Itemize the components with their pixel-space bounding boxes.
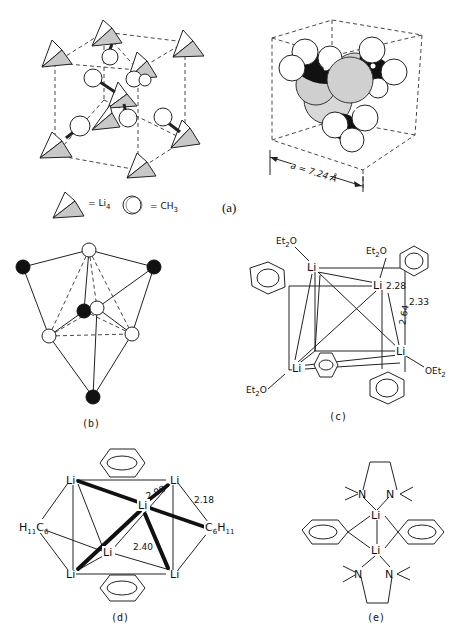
filled-atom xyxy=(147,260,161,274)
ch3-sphere xyxy=(102,49,118,65)
li-atom-label: Li xyxy=(103,546,112,559)
distance-label: 2.33 xyxy=(409,297,429,307)
et2o-label: Et2O xyxy=(246,385,267,398)
distance-label: 2.98 xyxy=(144,483,167,501)
et2o-label: Et2O xyxy=(366,246,387,259)
ch3-sphere xyxy=(119,109,137,127)
phenyl-ring xyxy=(302,520,348,544)
li-atom-label: Li xyxy=(371,544,380,557)
ch3-legend-label: = CH3 xyxy=(150,201,178,214)
li-atom-label: Li xyxy=(138,499,147,512)
phenyl-ring xyxy=(398,520,444,544)
distance-label: 2.64 xyxy=(397,304,410,326)
li4-legend-label: = Li4 xyxy=(88,198,111,211)
distance-label: 2.40 xyxy=(133,542,153,552)
panel-e-caption: (e) xyxy=(367,612,385,623)
li4-tetrahedron xyxy=(92,105,120,130)
li-atom-label: Li xyxy=(307,261,316,274)
li4-tetrahedron xyxy=(92,20,122,46)
filled-atom xyxy=(86,390,100,404)
phenyl-ring xyxy=(370,372,404,404)
ch3-legend-icon xyxy=(123,196,141,214)
open-atom xyxy=(90,301,104,315)
li-atom-label: Li xyxy=(292,362,301,375)
li4-tetrahedron xyxy=(42,40,72,67)
panel-d-caption: (d) xyxy=(111,612,129,623)
oet2-label: OEt2 xyxy=(425,366,446,379)
panel-a-legend: = Li4 = CH3 (a) xyxy=(53,192,236,218)
filled-atom xyxy=(16,260,30,274)
phenyl-ring xyxy=(100,575,145,601)
li4-legend-icon xyxy=(53,192,84,218)
nitrogen-label: N xyxy=(354,568,362,581)
nitrogen-label: N xyxy=(386,488,394,501)
nitrogen-label: N xyxy=(358,488,366,501)
li4-tetrahedron xyxy=(173,30,204,57)
nitrogen-label: N xyxy=(385,568,393,581)
li-atom-label: Li xyxy=(373,279,382,292)
phenyl-ring xyxy=(100,449,145,477)
ch3-sphere xyxy=(154,108,172,126)
li-atom-label: Li xyxy=(371,509,380,522)
ch3-sphere xyxy=(84,69,102,87)
li-atom-label: Li xyxy=(170,474,179,487)
panel-a-lattice xyxy=(40,20,204,178)
panel-d-structure: Li Li Li Li Li Li H11C6 C6H11 2.98 2.18 … xyxy=(18,449,234,623)
et2o-label: Et2O xyxy=(276,236,297,249)
panel-c-structure: Li Li Li Li Et2O Et2O Et2O OEt2 2.28 2.3… xyxy=(246,236,446,422)
ch3-sphere xyxy=(139,74,151,86)
panel-a-spacefill: a = 7.24 Å xyxy=(270,20,422,192)
open-atom xyxy=(82,243,96,257)
li-atom-label: Li xyxy=(66,568,75,581)
figure-canvas: = Li4 = CH3 (a) xyxy=(0,0,464,633)
distance-label: 2.28 xyxy=(386,281,406,291)
distance-label: 2.18 xyxy=(194,495,214,505)
ch3-sphere xyxy=(70,116,90,136)
filled-atom xyxy=(77,304,91,318)
panel-b-caption: (b) xyxy=(82,418,100,429)
phenyl-ring xyxy=(250,262,285,294)
phenyl-ring xyxy=(314,353,338,377)
open-atom xyxy=(125,327,139,341)
phenyl-ring xyxy=(400,246,428,276)
li4-tetrahedron xyxy=(127,153,156,178)
panel-b-polyhedron: (b) xyxy=(16,243,161,429)
li-atom-label: Li xyxy=(66,474,75,487)
open-atom xyxy=(42,329,56,343)
li4-tetrahedron xyxy=(171,120,200,148)
panel-e-structure: N N Li Li N N (e) xyxy=(302,462,444,623)
cell-parameter-label: a = 7.24 Å xyxy=(289,159,338,184)
li-atom-label: Li xyxy=(396,345,405,358)
li-atom-label: Li xyxy=(170,568,179,581)
panel-c-caption: (c) xyxy=(329,411,347,422)
panel-a-caption: (a) xyxy=(222,200,236,215)
